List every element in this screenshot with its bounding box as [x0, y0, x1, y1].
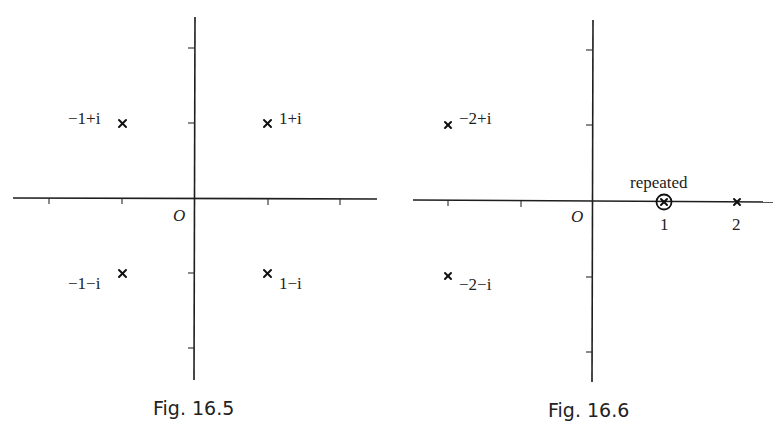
point-label: −1+i	[68, 109, 101, 128]
figure-caption: Fig. 16.6	[548, 399, 629, 421]
point-1-repeated: repeated 1	[630, 173, 688, 234]
figure-16-6: O −2+i −2−i repeated 1	[413, 20, 773, 421]
cross-marker-icon	[264, 120, 271, 127]
tick-label-1: 1	[660, 215, 669, 234]
cross-marker-icon	[119, 270, 126, 277]
point-label: 1+i	[279, 109, 302, 128]
figure-16-5: O −1+i 1+i −1−i	[13, 17, 377, 419]
origin-label: O	[571, 207, 583, 226]
imaginary-axis	[194, 17, 195, 380]
repeated-annotation: repeated	[630, 173, 688, 192]
point-label: 1−i	[279, 274, 302, 293]
point-label: −1−i	[68, 274, 101, 293]
point-neg2-minus-i: −2−i	[445, 273, 492, 294]
point-1-plus-i: 1+i	[264, 109, 302, 128]
cross-marker-icon	[445, 122, 451, 128]
cross-marker-icon	[264, 270, 271, 277]
point-neg1-plus-i: −1+i	[68, 109, 126, 128]
point-neg1-minus-i: −1−i	[68, 270, 126, 293]
argand-diagrams: O −1+i 1+i −1−i	[0, 0, 782, 441]
point-neg2-plus-i: −2+i	[445, 109, 492, 128]
origin-label: O	[173, 206, 185, 225]
point-2: 2	[732, 199, 741, 234]
imaginary-axis	[592, 20, 593, 382]
point-label: −2−i	[459, 275, 492, 294]
point-1-minus-i: 1−i	[264, 270, 302, 293]
point-label: −2+i	[459, 109, 492, 128]
cross-marker-icon	[119, 120, 126, 127]
figure-caption: Fig. 16.5	[153, 397, 234, 419]
tick-label-2: 2	[732, 215, 741, 234]
cross-marker-icon	[445, 273, 451, 279]
